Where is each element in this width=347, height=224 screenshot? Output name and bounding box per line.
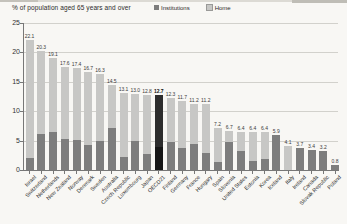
y-axis-label-25: 25 [2,19,20,26]
x-tick-japan [147,171,148,174]
bar-home-estonia [249,132,257,160]
bar-home-czech-republic [120,93,128,157]
bar-home-slovenia [225,131,233,142]
bar-home-spain [214,128,222,162]
bar-institutions-united-states [237,151,245,170]
x-tick-iceland [276,171,277,174]
x-tick-oecd21 [158,171,159,174]
x-tick-luxembourg [135,171,136,174]
bar-home-luxembourg [131,94,139,142]
x-tick-netherlands [53,171,54,174]
legend-item-home: Home [206,4,231,11]
value-label-iceland: 5.9 [267,128,285,134]
x-tick-korea [264,171,265,174]
gridline-20 [24,52,338,53]
bar-home-japan [143,95,151,154]
bar-institutions-estonia [249,161,257,170]
bar-home-united-states [237,132,245,150]
scan-mark-left [0,0,38,2]
bar-institutions-korea [261,159,269,170]
bar-institutions-ireland [296,148,304,170]
bar-home-switzerland [37,51,45,134]
x-tick-italy [288,171,289,174]
bar-institutions-spain [214,162,222,170]
x-tick-denmark [88,171,89,174]
x-tick-finland [170,171,171,174]
bar-institutions-sweden [96,141,104,170]
value-label-sweden: 16.3 [91,67,109,73]
x-tick-spain [217,171,218,174]
y-axis-label-5: 5 [2,137,20,144]
bar-home-finland [167,98,175,143]
scan-mark-right [292,0,347,3]
value-label-poland: 0.8 [326,158,344,164]
value-label-netherlands: 19.1 [44,51,62,57]
x-tick-sweden [100,171,101,174]
bar-home-norway [73,68,81,140]
value-label-slovak-republic: 3.2 [314,144,332,150]
bar-home-hungary [202,104,210,153]
legend-item-institutions: Institutions [154,5,190,11]
bar-institutions-poland [331,165,339,170]
bar-institutions-australia [108,128,116,170]
x-tick-united-states [241,171,242,174]
bar-home-israel [26,40,34,158]
bar-institutions-slovenia [225,142,233,170]
bar-institutions-new-zealand [61,139,69,170]
bar-home-france [190,104,198,144]
y-axis-label-0: 0 [2,166,20,173]
bar-institutions-luxembourg [131,141,139,170]
value-label-hungary: 11.2 [197,97,215,103]
institutions-swatch-icon [154,5,159,10]
y-tick-5 [20,141,23,142]
bar-home-germany [178,101,186,147]
legend: Institutions Home [154,4,231,11]
bar-institutions-norway [73,140,81,170]
bar-institutions-israel [26,158,34,170]
x-tick-canada [311,171,312,174]
bar-home-denmark [84,72,92,146]
legend-label-institutions: Institutions [161,5,190,11]
x-tick-switzerland [41,171,42,174]
value-label-australia: 14.5 [103,78,121,84]
bar-institutions-hungary [202,153,210,170]
x-tick-australia [111,171,112,174]
gridline-25 [24,23,338,24]
x-tick-slovenia [229,171,230,174]
y-axis-label-15: 15 [2,78,20,85]
bar-institutions-canada [308,150,316,170]
value-label-switzerland: 20.3 [32,44,50,50]
x-tick-norway [76,171,77,174]
bar-institutions-france [190,144,198,170]
x-tick-czech-republic [123,171,124,174]
x-tick-germany [182,171,183,174]
bar-home-italy [284,146,292,170]
bar-home-netherlands [49,58,57,133]
scanned-chart-page: % of population aged 65 years and over I… [0,0,347,224]
value-label-israel: 22.1 [21,33,39,39]
legend-label-home: Home [215,5,231,11]
x-tick-estonia [252,171,253,174]
y-tick-15 [20,82,23,83]
bar-institutions-switzerland [37,134,45,170]
bar-home-korea [261,132,269,158]
y-tick-25 [20,23,23,24]
x-tick-ireland [299,171,300,174]
y-axis-label-20: 20 [2,48,20,55]
x-tick-slovak-republic [323,171,324,174]
bar-institutions-japan [143,154,151,170]
y-axis-line [23,23,24,170]
x-tick-poland [335,171,336,174]
x-tick-israel [29,171,30,174]
y-tick-0 [20,170,23,171]
y-tick-10 [20,111,23,112]
x-tick-hungary [205,171,206,174]
gridline-15 [24,82,338,83]
home-swatch-icon [206,4,213,11]
bar-home-oecd21 [155,95,163,147]
bar-institutions-netherlands [49,132,57,170]
bar-institutions-germany [178,148,186,170]
bar-institutions-oecd21 [155,147,163,170]
y-tick-20 [20,52,23,53]
x-tick-new-zealand [64,171,65,174]
